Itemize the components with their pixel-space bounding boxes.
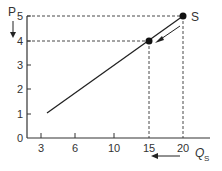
y-axis-label: P: [8, 5, 16, 19]
svg-text:2: 2: [17, 83, 23, 95]
x-ticks: [41, 133, 114, 138]
svg-text:15: 15: [143, 142, 155, 154]
svg-text:20: 20: [177, 142, 189, 154]
point-new: [146, 38, 153, 45]
guide-lines: [27, 16, 183, 138]
curve-label: S: [191, 10, 199, 24]
svg-text:0: 0: [17, 132, 23, 144]
x-axis-label-sub: S: [204, 154, 209, 163]
svg-text:6: 6: [72, 142, 78, 154]
x-axis-label: Q: [195, 146, 204, 160]
point-s: [180, 13, 187, 20]
left-arrow-icon: [151, 153, 180, 159]
svg-text:1: 1: [17, 108, 23, 120]
svg-text:4: 4: [17, 35, 23, 47]
svg-text:3: 3: [17, 59, 23, 71]
down-arrow-icon: [10, 21, 16, 38]
svg-text:5: 5: [17, 10, 23, 22]
supply-chart: 0 1 2 3 4 5 3 6 10 15 20 S P: [0, 0, 222, 171]
x-tick-labels: 3 6 10 15 20: [38, 142, 189, 154]
svg-text:3: 3: [38, 142, 44, 154]
y-tick-labels: 0 1 2 3 4 5: [17, 10, 23, 144]
movement-arrow-icon: [155, 26, 180, 43]
supply-curve: [47, 16, 183, 113]
svg-text:10: 10: [108, 142, 120, 154]
